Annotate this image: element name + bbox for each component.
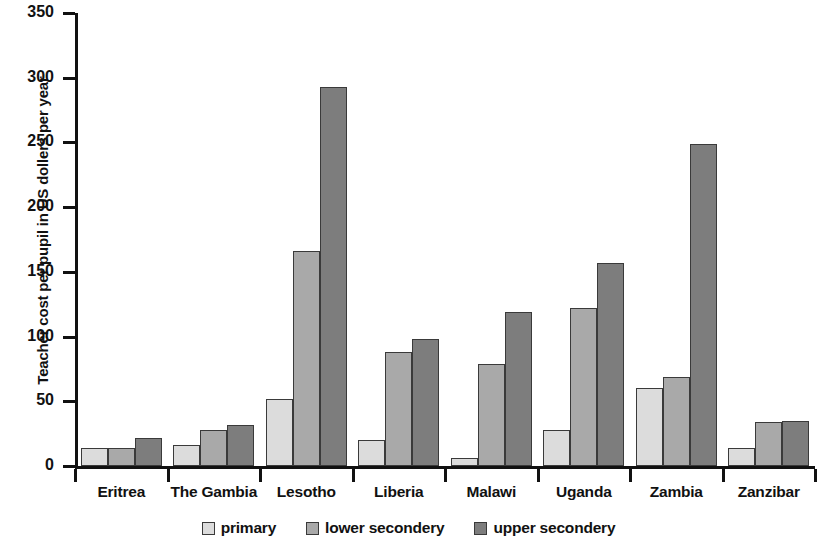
legend-swatch-icon — [474, 522, 487, 535]
legend-item[interactable]: primary — [202, 519, 276, 537]
bar — [108, 448, 135, 466]
bar — [505, 312, 532, 466]
x-axis-tick — [629, 469, 632, 482]
legend-label: lower secondery — [325, 519, 444, 537]
bar — [597, 263, 624, 466]
bar — [451, 458, 478, 466]
y-axis-tick-label: 300 — [0, 68, 54, 86]
legend-label: primary — [221, 519, 276, 537]
y-axis-tick — [63, 400, 75, 403]
x-axis-tick — [352, 469, 355, 482]
y-axis-tick-label: 100 — [0, 327, 54, 345]
x-axis-tick — [537, 469, 540, 482]
bar-group — [358, 13, 439, 466]
bar-group — [728, 13, 809, 466]
legend-item[interactable]: lower secondery — [306, 519, 444, 537]
y-axis-tick — [63, 12, 75, 15]
y-axis-tick-label: 350 — [0, 3, 54, 21]
plot-area — [75, 13, 812, 466]
y-axis-tick-label: 250 — [0, 132, 54, 150]
y-axis-tick-label: 200 — [0, 197, 54, 215]
y-axis-tick-label: 50 — [0, 391, 54, 409]
bar-group — [173, 13, 254, 466]
x-axis-category-label: Zanzibar — [738, 483, 800, 501]
bar — [570, 308, 597, 466]
bar-group — [81, 13, 162, 466]
x-axis-tick — [74, 469, 77, 482]
x-axis-category-label: Malawi — [466, 483, 516, 501]
bar — [135, 438, 162, 466]
x-axis-tick — [167, 469, 170, 482]
bar-group — [451, 13, 532, 466]
bar — [412, 339, 439, 466]
legend-label: upper secondery — [493, 519, 615, 537]
bar — [385, 352, 412, 466]
y-axis-tick — [63, 336, 75, 339]
bar — [663, 377, 690, 466]
y-axis-tick — [63, 141, 75, 144]
bar — [358, 440, 385, 466]
y-axis-tick — [63, 465, 75, 468]
bar — [728, 448, 755, 466]
y-axis-tick — [63, 271, 75, 274]
bar — [636, 388, 663, 466]
y-axis-tick — [63, 77, 75, 80]
bar — [478, 364, 505, 466]
bar-group — [266, 13, 347, 466]
bar — [293, 251, 320, 466]
bar — [690, 144, 717, 466]
x-axis-category-label: Zambia — [650, 483, 703, 501]
x-axis-category-label: Lesotho — [277, 483, 336, 501]
chart-legend: primarylower seconderyupper secondery — [0, 519, 817, 537]
x-axis-tick — [444, 469, 447, 482]
legend-item[interactable]: upper secondery — [474, 519, 615, 537]
bar — [81, 448, 108, 466]
bar-group — [636, 13, 717, 466]
bar — [320, 87, 347, 466]
y-axis-tick-label: 150 — [0, 262, 54, 280]
y-axis-tick-label: 0 — [0, 456, 54, 474]
bar — [543, 430, 570, 466]
x-axis-category-label: Eritrea — [97, 483, 145, 501]
bar — [227, 425, 254, 466]
bar — [782, 421, 809, 466]
y-axis-tick — [63, 206, 75, 209]
x-axis-category-label: Liberia — [374, 483, 423, 501]
bar — [200, 430, 227, 466]
x-axis-tick — [259, 469, 262, 482]
x-axis-category-label: Uganda — [556, 483, 612, 501]
bar-group — [543, 13, 624, 466]
bar — [173, 445, 200, 466]
x-axis-tick — [722, 469, 725, 482]
bar — [266, 399, 293, 466]
bar-chart: Teacher cost per pupil in US dollers per… — [0, 0, 817, 551]
x-axis-category-label: The Gambia — [170, 483, 257, 501]
legend-swatch-icon — [306, 522, 319, 535]
bar — [755, 422, 782, 466]
legend-swatch-icon — [202, 522, 215, 535]
